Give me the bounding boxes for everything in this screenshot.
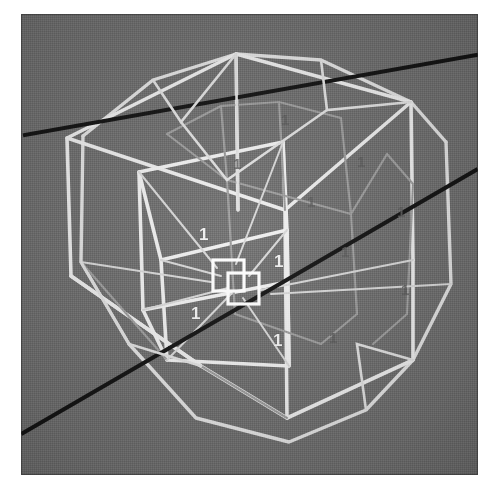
axis-lines: [23, 55, 476, 433]
vertex-label: 1: [273, 332, 282, 349]
outer-polyhedron: [81, 54, 451, 442]
vertex-label: 1: [329, 330, 337, 345]
wireframe-scene: [21, 14, 478, 475]
figure-canvas: 1 1 1 1 1 1 1 1 1 1 1 1: [21, 14, 478, 475]
interior-spokes: [81, 142, 451, 366]
axis-line-1: [25, 55, 476, 135]
vertex-label: 1: [401, 282, 409, 297]
vertex-label: 1: [199, 226, 208, 243]
vertex-label: 1: [274, 253, 283, 270]
vertex-label: 1: [397, 204, 405, 219]
vertex-label: 1: [281, 112, 289, 127]
center-squares: [213, 260, 259, 304]
vertex-label: 1: [307, 194, 315, 209]
figure-page: 1 1 1 1 1 1 1 1 1 1 1 1: [0, 0, 501, 495]
vertex-label: 1: [341, 244, 349, 259]
vertex-label: 1: [233, 156, 241, 171]
vertex-label: 1: [357, 154, 365, 169]
vertex-label: 1: [191, 305, 200, 322]
